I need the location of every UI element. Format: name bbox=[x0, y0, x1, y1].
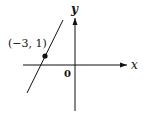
y-axis-label: y bbox=[70, 2, 79, 16]
origin-label: 0 bbox=[64, 68, 71, 79]
point-marker bbox=[42, 53, 47, 58]
x-axis-label: x bbox=[131, 58, 138, 72]
coordinate-diagram: (−3, 1) 0 x y bbox=[0, 0, 148, 117]
diagram-canvas: (−3, 1) 0 x y bbox=[0, 0, 148, 117]
point-label: (−3, 1) bbox=[8, 37, 47, 50]
